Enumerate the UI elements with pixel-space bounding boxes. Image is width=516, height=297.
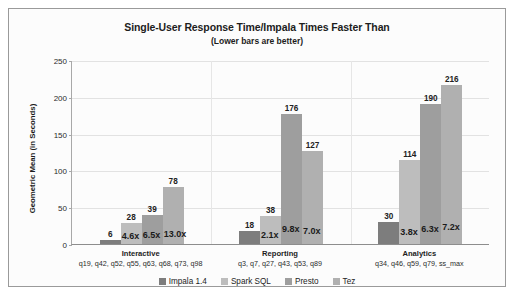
- legend-swatch-icon: [333, 278, 340, 285]
- bar[interactable]: 18: [239, 231, 260, 244]
- bar-value-label: 114: [399, 150, 420, 159]
- chart-frame: Single-User Response Time/Impala Times F…: [8, 8, 506, 287]
- x-axis-category-label: Reportingq3, q7, q27, q43, q53, q89: [210, 249, 349, 268]
- bar-cluster: 6284.6x396.5x7813.0x: [72, 61, 211, 244]
- bar-group: 18382.1x1769.8x1277.0x: [211, 61, 350, 244]
- legend-label: Impala 1.4: [169, 277, 207, 286]
- bar[interactable]: 30: [378, 222, 399, 244]
- bar-column[interactable]: 382.1x: [260, 61, 281, 244]
- y-axis-tick-label: 0: [63, 241, 67, 250]
- bar-column[interactable]: 396.5x: [142, 61, 163, 244]
- bar-column[interactable]: 18: [239, 61, 260, 244]
- bar-column[interactable]: 284.6x: [121, 61, 142, 244]
- bar-value-label: 190: [420, 94, 441, 103]
- speedup-multiplier-label: 6.5x: [143, 230, 161, 240]
- chart-title: Single-User Response Time/Impala Times F…: [9, 21, 505, 33]
- bar-column[interactable]: 2167.2x: [441, 61, 462, 244]
- bar[interactable]: 1769.8x: [281, 114, 302, 244]
- y-tick-mark: [69, 245, 72, 246]
- category-query-list: q34, q46, q59, q79, ss_max: [350, 259, 489, 268]
- category-query-list: q19, q42, q52, q55, q63, q68, q73, q98: [71, 259, 210, 268]
- bar-value-label: 28: [121, 213, 142, 222]
- chart-legend: Impala 1.4Spark SQLPrestoTez: [9, 277, 505, 286]
- bar[interactable]: 2167.2x: [441, 85, 462, 244]
- speedup-multiplier-label: 7.0x: [303, 226, 321, 236]
- bar-cluster: 18382.1x1769.8x1277.0x: [211, 61, 350, 244]
- y-axis-title: Geometric Mean (in Seconds): [28, 84, 37, 234]
- speedup-multiplier-label: 13.0x: [164, 229, 187, 239]
- bar-column[interactable]: 1769.8x: [281, 61, 302, 244]
- y-axis-tick-label: 200: [54, 93, 67, 102]
- y-axis-tick-label: 100: [54, 167, 67, 176]
- speedup-multiplier-label: 4.6x: [122, 231, 140, 241]
- bar-value-label: 39: [142, 205, 163, 214]
- speedup-multiplier-label: 3.8x: [400, 227, 418, 237]
- legend-swatch-icon: [285, 278, 292, 285]
- legend-swatch-icon: [221, 278, 228, 285]
- bar[interactable]: 6: [100, 240, 121, 244]
- bar-value-label: 30: [378, 212, 399, 221]
- x-axis-category-label: Interactiveq19, q42, q52, q55, q63, q68,…: [71, 249, 210, 268]
- bar-cluster: 301143.8x1906.3x2167.2x: [351, 61, 490, 244]
- speedup-multiplier-label: 7.2x: [442, 222, 460, 232]
- bar[interactable]: 1277.0x: [302, 151, 323, 244]
- bar[interactable]: 1906.3x: [420, 104, 441, 244]
- bar-group: 6284.6x396.5x7813.0x: [72, 61, 211, 244]
- bar[interactable]: 7813.0x: [163, 187, 184, 244]
- chart-subtitle: (Lower bars are better): [9, 36, 505, 46]
- legend-swatch-icon: [159, 278, 166, 285]
- bar-value-label: 38: [260, 206, 281, 215]
- bar-value-label: 78: [163, 177, 184, 186]
- bar-column[interactable]: 1906.3x: [420, 61, 441, 244]
- bar-column[interactable]: 1277.0x: [302, 61, 323, 244]
- legend-label: Spark SQL: [231, 277, 271, 286]
- category-name: Analytics: [350, 249, 489, 258]
- category-name: Interactive: [71, 249, 210, 258]
- legend-item[interactable]: Tez: [333, 277, 356, 286]
- y-axis-tick-label: 150: [54, 130, 67, 139]
- bar-value-label: 216: [441, 75, 462, 84]
- bar-value-label: 127: [302, 141, 323, 150]
- bar[interactable]: 284.6x: [121, 223, 142, 244]
- bar-column[interactable]: 6: [100, 61, 121, 244]
- legend-item[interactable]: Presto: [285, 277, 319, 286]
- bar[interactable]: 1143.8x: [399, 160, 420, 244]
- speedup-multiplier-label: 2.1x: [261, 230, 279, 240]
- category-query-list: q3, q7, q27, q43, q53, q89: [210, 259, 349, 268]
- plot-area: 0501001502002506284.6x396.5x7813.0x18382…: [71, 61, 489, 245]
- y-axis-tick-label: 50: [58, 204, 67, 213]
- bar-value-label: 176: [281, 104, 302, 113]
- bar-column[interactable]: 30: [378, 61, 399, 244]
- x-axis-category-label: Analyticsq34, q46, q59, q79, ss_max: [350, 249, 489, 268]
- legend-item[interactable]: Impala 1.4: [159, 277, 207, 286]
- legend-item[interactable]: Spark SQL: [221, 277, 271, 286]
- bar[interactable]: 396.5x: [142, 215, 163, 244]
- bar[interactable]: 382.1x: [260, 216, 281, 244]
- category-name: Reporting: [210, 249, 349, 258]
- bar-column[interactable]: 7813.0x: [163, 61, 184, 244]
- legend-label: Presto: [295, 277, 319, 286]
- speedup-multiplier-label: 6.3x: [421, 224, 439, 234]
- speedup-multiplier-label: 9.8x: [282, 224, 300, 234]
- bar-value-label: 18: [239, 221, 260, 230]
- bar-column[interactable]: 1143.8x: [399, 61, 420, 244]
- legend-label: Tez: [343, 277, 356, 286]
- bar-group: 301143.8x1906.3x2167.2x: [351, 61, 490, 244]
- y-axis-tick-label: 250: [54, 57, 67, 66]
- bar-value-label: 6: [100, 230, 121, 239]
